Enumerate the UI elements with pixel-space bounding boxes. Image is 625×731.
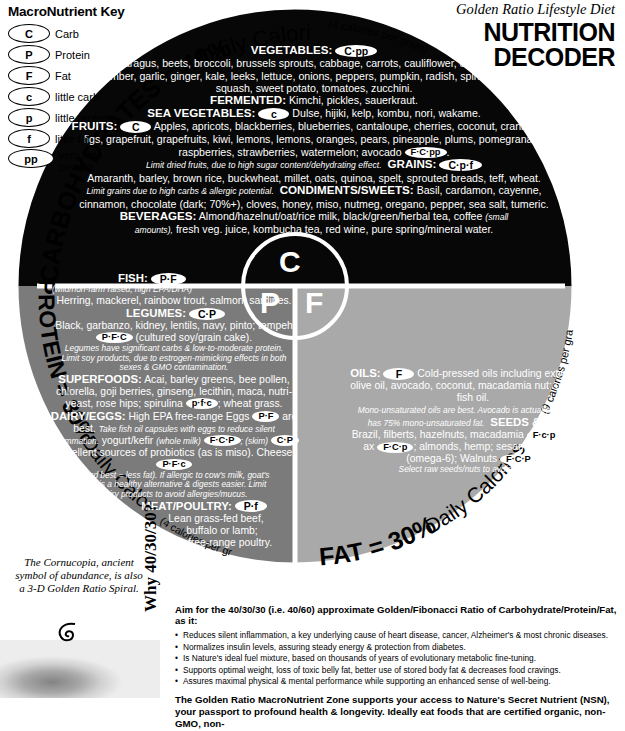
protein-meat-body1: Lean grass-fed beef,	[40, 513, 308, 525]
protein-content: FISH: P·F (wild/non-farm raised; high EP…	[40, 272, 308, 549]
protein-legumes-body1: Black, garbanzo, kidney, lentils, navy, …	[55, 320, 293, 331]
list-item: Normalizes insulin levels, assuring stea…	[175, 642, 618, 654]
protein-dairy-note2: (whole milk)	[156, 436, 201, 446]
badge-avocado: F·C·pp	[405, 147, 447, 158]
protein-meat-body2: buffalo or lamb;	[40, 525, 308, 537]
fat-seeds-note: Select raw seeds/nuts to avoid rancidity…	[342, 465, 604, 475]
badge-spirulina: p·f·c	[186, 398, 218, 409]
badge-meat: P·f	[235, 500, 267, 512]
list-item: Is Nature's ideal fuel mixture, based on…	[175, 653, 618, 665]
carb-vegetables-head: VEGETABLES:	[251, 43, 333, 56]
carb-beverages-body2: fresh veg. juice, kombucha tea, red wine…	[176, 223, 369, 235]
list-item: Assures maximal physical & mental perfor…	[175, 676, 618, 688]
badge-carb-icon: C	[8, 24, 50, 43]
protein-meat-body3: free-range poultry.	[40, 537, 308, 549]
badge-yogurt-whole: F·C·P	[204, 435, 241, 446]
key-label-carb: Carb	[55, 28, 79, 40]
key-label-little-protein: little protein	[55, 112, 111, 124]
protein-legumes-head: LEGUMES:	[126, 307, 186, 319]
protein-dairy-head: DAIRY/EGGS:	[51, 410, 126, 422]
golden-spiral-icon	[55, 620, 81, 650]
protein-dairy-body1: High EPA free-range Eggs	[128, 411, 249, 422]
carb-fruits-note: Limit dried fruits, due to high sugar co…	[146, 160, 382, 170]
carb-beverages-body3: pure spring/mineral water.	[371, 223, 493, 235]
protein-meat: MEAT/POULTRY: P·f	[40, 500, 308, 513]
key-item-little-protein: p little protein	[8, 107, 178, 128]
badge-legumes: C·P	[189, 308, 225, 320]
carb-condiments-line: Limit grains due to high carbs & allergi…	[64, 184, 564, 210]
badge-grains: C·p·f	[439, 159, 482, 171]
badge-protein-icon: P	[8, 45, 50, 64]
key-title: MacroNutrient Key	[8, 4, 178, 19]
fat-seeds-body4: ;	[537, 453, 540, 464]
protein-fish-legumes-row: Herring, mackerel, rainbow trout, salmon…	[40, 295, 308, 320]
title-line-1: NUTRITION	[483, 20, 615, 45]
bottom-closing: The Golden Ratio MacroNutrient Zone supp…	[175, 694, 618, 731]
page-title: NUTRITION DECODER	[483, 20, 615, 70]
key-label-little-fat: little fat	[55, 133, 90, 145]
carb-sea-body: Dulse, hijiki, kelp, kombu, nori, wakame…	[292, 107, 480, 119]
badge-chia-flax: F·C·p	[377, 442, 413, 453]
protein-fish-body: Herring, mackerel, rainbow trout, salmon…	[56, 295, 291, 306]
badge-very-little-protein-icon: pp	[8, 149, 54, 168]
key-label-little-carb: little carb	[55, 91, 99, 103]
badge-fish: P·F	[151, 273, 186, 285]
bottom-lead: Aim for the 40/30/30 (i.e. 40/60) approx…	[175, 604, 618, 626]
badge-walnuts: F·C·P	[500, 454, 537, 465]
protein-dairy-body4: excellent sources of probiotics (as is m…	[56, 447, 293, 458]
protein-legumes-body: Black, garbanzo, kidney, lentils, navy, …	[40, 320, 308, 344]
badge-cheese: P·F·c	[156, 459, 191, 470]
key-label-protein: Protein	[55, 49, 90, 61]
protein-superfoods-head: SUPERFOODS:	[58, 373, 142, 385]
tagline: Golden Ratio Lifestyle Diet	[456, 1, 615, 18]
protein-dairy-note3: ; (skim)	[241, 436, 268, 446]
key-item-fat: F Fat	[8, 65, 178, 86]
bottom-bullet-list: Reduces silent inflammation, a key under…	[175, 630, 618, 688]
fat-seeds-body1: Brazil, filberts, hazelnuts, macadamia	[352, 429, 524, 440]
protein-fish-head: FISH:	[118, 272, 148, 284]
key-label-fat: Fat	[55, 70, 71, 82]
fat-oils: OILS: F Cold-pressed oils including extr…	[342, 367, 604, 404]
badge-oils: F	[383, 368, 414, 380]
key-item-protein: P Protein	[8, 44, 178, 65]
carb-condiments-head: CONDIMENTS/SWEETS:	[280, 183, 414, 196]
badge-vegetables: C·pp	[335, 45, 377, 57]
bottom-explainer: Aim for the 40/30/30 (i.e. 40/60) approx…	[175, 604, 618, 731]
badge-little-fat-icon: f	[8, 129, 50, 148]
protein-fish-head-row: FISH: P·F	[40, 272, 308, 285]
protein-superfoods-body2: ; wheat grass.	[218, 398, 283, 409]
protein-legumes-body2: (cultured soy/grain cake).	[136, 332, 253, 343]
badge-little-protein-icon: p	[8, 108, 50, 127]
fat-content: OILS: F Cold-pressed oils including extr…	[342, 367, 604, 475]
carb-grains-head: GRAINS:	[388, 157, 437, 170]
badge-tempeh: P·F·C	[96, 332, 133, 343]
key-item-carb: C Carb	[8, 23, 178, 44]
protein-dairy: DAIRY/EGGS: High EPA free-range Eggs P·F…	[40, 410, 308, 471]
title-line-2: DECODER	[483, 45, 615, 70]
badge-yogurt-skim: C·P	[271, 435, 299, 446]
badge-macadamia: F·c·p	[527, 430, 562, 441]
fat-oils-head: OILS:	[350, 367, 380, 379]
carb-grains-note: Limit grains due to high carbs & allergi…	[87, 186, 274, 196]
protein-dairy-note4: (hard best = less fat). If allergic to c…	[40, 471, 308, 500]
carb-beverages-body1: Almond/hazelnut/oat/rice milk, black/gre…	[199, 210, 483, 222]
badge-eggs: P·F	[252, 411, 279, 422]
key-label-very-little-protein: very little protein	[59, 149, 121, 173]
cornucopia-caption: The Cornucopia, ancient symbol of abunda…	[14, 556, 144, 595]
why-403030-text: Why 40/30/30?	[141, 504, 161, 612]
badge-sea-vegetables: c	[258, 108, 289, 120]
fat-seeds-body3: ; almonds, hemp; sesame/ sunflower (omeg…	[406, 441, 582, 464]
key-item-little-fat: f little fat	[8, 128, 178, 149]
key-item-very-little-protein: pp very little protein	[8, 149, 178, 179]
fat-seeds-head: SEEDS & NUTS:	[490, 416, 578, 428]
macronutrient-key: MacroNutrient Key C Carb P Protein F Fat…	[8, 4, 178, 179]
badge-little-carb-icon: c	[8, 87, 50, 106]
badge-fat-icon: F	[8, 66, 50, 85]
list-item: Supports optimal weight, loss of toxic b…	[175, 665, 618, 677]
carb-fermented-head: FERMENTED:	[210, 93, 286, 106]
protein-superfoods: SUPERFOODS: Acai, barley greens, bee pol…	[40, 373, 308, 410]
protein-legumes-note: Legumes have significant carbs & low-to-…	[40, 344, 308, 373]
carb-beverages: BEVERAGES: Almond/hazelnut/oat/rice milk…	[64, 210, 564, 237]
protein-dairy-body3: yogurt/kefir	[102, 435, 153, 446]
protein-fish-note: (wild/non-farm raised; high EPA/DHA)	[40, 285, 308, 295]
